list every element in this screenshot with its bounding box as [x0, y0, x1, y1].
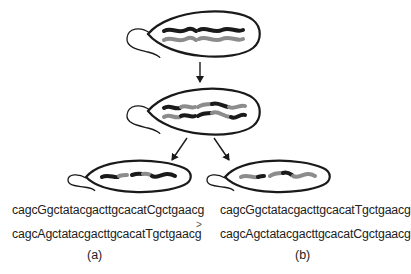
label-a: (a): [87, 248, 102, 262]
cell-membrane: [148, 11, 260, 56]
arrow-to-b: [214, 138, 229, 160]
sequence-a-line1: cagcGgctatacgacttgcacatCgctgaacg: [12, 203, 204, 217]
cell-membrane: [148, 89, 260, 135]
parent-cell: [127, 11, 260, 58]
daughter-cell-a: [68, 161, 191, 192]
arrow-to-a: [172, 138, 187, 160]
sequence-a-line2: cagcAgctatacgacttgcacatTgctgaacg: [12, 227, 201, 241]
comparator-symbol: >: [196, 219, 202, 230]
recombining-cell: [127, 89, 260, 135]
daughter-cell-b: [207, 161, 330, 192]
sequence-b-line1: cagcGgctatacgacttgcacatTgctgaacg: [220, 203, 411, 217]
sequence-b-line2: cagcAgctatacgacttgcacatCgctgaacg: [220, 227, 411, 241]
label-b: (b): [295, 248, 310, 262]
